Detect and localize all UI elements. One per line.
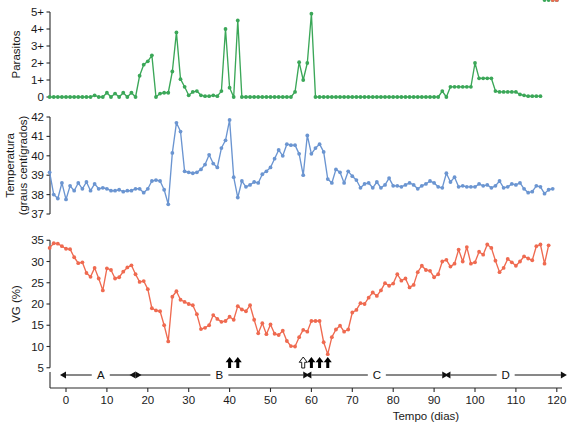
data-point — [256, 331, 260, 335]
data-point — [113, 277, 117, 281]
data-point — [539, 185, 543, 189]
data-point — [76, 95, 80, 99]
data-point — [113, 92, 117, 96]
data-point — [383, 281, 387, 285]
data-point — [134, 187, 138, 191]
treatment-arrow-hollow — [299, 357, 307, 368]
data-point — [404, 95, 408, 99]
data-point — [354, 308, 358, 312]
data-point — [412, 283, 416, 287]
data-point — [187, 93, 191, 97]
data-point — [547, 243, 551, 247]
data-point — [228, 86, 232, 90]
data-point — [265, 95, 269, 99]
data-point — [379, 186, 383, 190]
data-point — [404, 277, 408, 281]
data-point — [399, 279, 403, 283]
data-point — [236, 304, 240, 308]
data-point — [125, 266, 129, 270]
data-point — [510, 182, 514, 186]
data-point — [97, 187, 101, 191]
data-point — [101, 95, 105, 99]
data-point — [68, 247, 72, 251]
phase-d: D — [444, 369, 566, 381]
data-point — [391, 184, 395, 188]
data-point — [97, 95, 101, 99]
data-point — [134, 272, 138, 276]
data-point — [498, 179, 502, 183]
data-point — [518, 260, 522, 264]
data-point — [134, 95, 138, 99]
phase-arrowhead — [60, 372, 66, 379]
data-point — [301, 78, 305, 82]
data-point — [105, 187, 109, 191]
data-point — [510, 260, 514, 264]
data-point — [301, 173, 305, 177]
data-point — [146, 287, 150, 291]
data-point — [195, 312, 199, 316]
data-point — [175, 289, 179, 293]
data-point — [477, 76, 481, 80]
data-point — [281, 329, 285, 333]
data-point — [93, 266, 97, 270]
data-point — [215, 166, 219, 170]
data-point — [502, 90, 506, 94]
data-point — [76, 181, 80, 185]
data-point — [158, 179, 162, 183]
data-point — [473, 185, 477, 189]
data-point — [498, 270, 502, 274]
x-tick-label: 120 — [547, 394, 566, 406]
data-point — [80, 95, 84, 99]
data-point — [424, 268, 428, 272]
data-point — [408, 95, 412, 99]
data-point — [76, 261, 80, 265]
data-point — [395, 184, 399, 188]
data-point — [514, 264, 518, 268]
data-point — [183, 300, 187, 304]
data-point — [334, 328, 338, 332]
y-tick-label: 41 — [31, 130, 44, 142]
data-point — [334, 167, 338, 171]
data-point — [158, 309, 162, 313]
data-point — [80, 260, 84, 264]
data-point — [469, 262, 473, 266]
x-tick-label: 10 — [101, 394, 114, 406]
data-point — [146, 59, 150, 63]
data-point — [436, 185, 440, 189]
data-point — [183, 169, 187, 173]
data-point — [252, 180, 256, 184]
data-point — [195, 89, 199, 93]
data-point — [232, 318, 236, 322]
data-point — [502, 266, 506, 270]
data-point — [318, 319, 322, 323]
data-point — [220, 146, 224, 150]
treatment-arrow-solid — [324, 357, 332, 368]
data-point — [543, 262, 547, 266]
data-point — [89, 189, 93, 193]
data-point — [526, 191, 530, 195]
data-point — [543, 192, 547, 196]
data-point — [489, 186, 493, 190]
data-point — [281, 154, 285, 158]
y-tick-label: 15 — [31, 319, 44, 331]
data-point — [130, 263, 134, 267]
data-point — [130, 91, 134, 95]
data-point — [473, 61, 477, 65]
y-tick-label: 5 — [38, 362, 44, 374]
data-point — [379, 289, 383, 293]
data-point — [260, 321, 264, 325]
series-line — [50, 14, 541, 97]
data-point — [203, 94, 207, 98]
data-point — [514, 90, 518, 94]
data-point — [428, 179, 432, 183]
data-point — [179, 77, 183, 81]
data-point — [175, 121, 179, 125]
data-point — [465, 85, 469, 89]
phase-a: A — [60, 369, 142, 381]
data-point — [371, 186, 375, 190]
data-point — [485, 183, 489, 187]
y-tick-label: 2+ — [31, 57, 44, 69]
data-point — [539, 243, 543, 247]
data-point — [494, 259, 498, 263]
data-point — [64, 198, 68, 202]
